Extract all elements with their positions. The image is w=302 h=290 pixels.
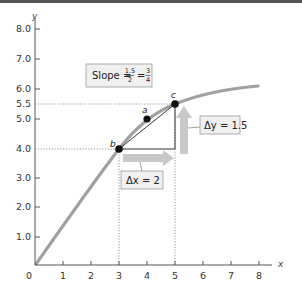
y-tick-label: 1.0 xyxy=(16,231,31,242)
x-tick-labels: 0 1 2 3 4 5 6 7 8 xyxy=(26,270,262,281)
y-tick-label: 7.0 xyxy=(16,53,31,64)
slope-frac2-num: 3 xyxy=(146,67,150,75)
point-c-label: c xyxy=(171,90,176,100)
y-axis-title: y xyxy=(31,11,38,21)
x-tick-label: 4 xyxy=(144,270,150,281)
slope-frac2-den: 4 xyxy=(146,76,150,84)
x-tick-label: 3 xyxy=(116,270,122,281)
y-tick-label: 5.5 xyxy=(16,98,31,109)
x-tick-label: 7 xyxy=(228,270,234,281)
y-tick-label: 4.0 xyxy=(16,143,31,154)
point-b-label: b xyxy=(110,139,116,149)
delta-y-arrow xyxy=(176,106,192,154)
delta-x-label: Δx = 2 xyxy=(126,175,160,186)
y-tick-label: 2.0 xyxy=(16,201,31,212)
point-b xyxy=(115,145,123,153)
x-tick-label: 8 xyxy=(256,270,262,281)
y-tick-labels: 1.0 2.0 3.0 4.0 5.0 5.5 6.0 7.0 8.0 xyxy=(16,23,31,242)
slope-frac1-den: 2 xyxy=(128,76,132,84)
x-tick-label: 1 xyxy=(60,270,66,281)
delta-x-box: Δx = 2 xyxy=(121,162,163,189)
slope-eq: = xyxy=(137,70,145,81)
axes xyxy=(35,18,272,265)
y-tick-label: 3.0 xyxy=(16,172,31,183)
slope-frac1-num: 1.5 xyxy=(125,67,135,75)
slope-annotation-box: Slope = 1.5 2 = 3 4 xyxy=(86,64,152,87)
point-a xyxy=(143,115,150,122)
chart-canvas: 0 1 2 3 4 5 6 7 8 1.0 2.0 3.0 4.0 5.0 5.… xyxy=(0,0,302,290)
delta-x-arrow xyxy=(123,150,174,166)
delta-y-box: Δy = 1.5 xyxy=(188,116,247,134)
x-ticks xyxy=(63,261,259,265)
x-tick-label: 0 xyxy=(26,270,32,281)
y-tick-label: 8.0 xyxy=(16,23,31,34)
x-tick-label: 6 xyxy=(200,270,206,281)
delta-y-label: Δy = 1.5 xyxy=(204,120,247,131)
x-tick-label: 2 xyxy=(88,270,94,281)
x-axis-title: x xyxy=(277,259,284,269)
y-tick-label: 6.0 xyxy=(16,83,31,94)
y-ticks xyxy=(35,29,40,237)
point-c xyxy=(171,100,179,108)
y-tick-label: 5.0 xyxy=(16,113,31,124)
point-a-label: a xyxy=(142,105,148,115)
x-tick-label: 5 xyxy=(172,270,178,281)
